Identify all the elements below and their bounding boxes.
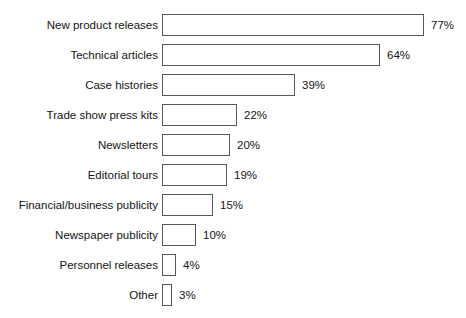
bar — [162, 14, 424, 36]
chart-caption — [10, 0, 310, 5]
bar-row: Financial/business publicity15% — [0, 194, 466, 216]
bar-row: Trade show press kits22% — [0, 104, 466, 126]
bar-value-label: 39% — [295, 74, 325, 96]
bar-row: Newspaper publicity10% — [0, 224, 466, 246]
bar-category-label: Newsletters — [98, 134, 158, 156]
bar — [162, 134, 230, 156]
bar-row: Other3% — [0, 284, 466, 306]
bar-value-label: 19% — [227, 164, 257, 186]
bar-track — [162, 164, 227, 186]
bar-track — [162, 104, 237, 126]
bar-track — [162, 134, 230, 156]
bar-row: Editorial tours19% — [0, 164, 466, 186]
bar-track — [162, 74, 295, 96]
bar-row: New product releases77% — [0, 14, 466, 36]
bar-category-label: New product releases — [47, 14, 158, 36]
bar-category-label: Technical articles — [70, 44, 158, 66]
bar-row: Case histories39% — [0, 74, 466, 96]
bar — [162, 74, 295, 96]
bar — [162, 284, 172, 306]
bar-value-label: 3% — [172, 284, 196, 306]
bar-track — [162, 254, 176, 276]
bar-category-label: Case histories — [85, 74, 158, 96]
bar-value-label: 10% — [196, 224, 226, 246]
bar-value-label: 4% — [176, 254, 200, 276]
bar-value-label: 22% — [237, 104, 267, 126]
bar — [162, 44, 380, 66]
bar-value-label: 64% — [380, 44, 410, 66]
bar-category-label: Newspaper publicity — [55, 224, 158, 246]
bar-row: Newsletters20% — [0, 134, 466, 156]
bar-value-label: 77% — [424, 14, 454, 36]
bar-value-label: 20% — [230, 134, 260, 156]
bar-category-label: Financial/business publicity — [19, 194, 158, 216]
bar-row: Technical articles64% — [0, 44, 466, 66]
bar-row: Personnel releases4% — [0, 254, 466, 276]
bar-track — [162, 194, 213, 216]
bar-track — [162, 284, 172, 306]
bar — [162, 224, 196, 246]
chart-plot-area: New product releases77%Technical article… — [0, 14, 466, 314]
bar-track — [162, 14, 424, 36]
bar — [162, 164, 227, 186]
bar — [162, 194, 213, 216]
bar-track — [162, 44, 380, 66]
bar-category-label: Editorial tours — [88, 164, 158, 186]
horizontal-bar-chart: New product releases77%Technical article… — [0, 0, 466, 318]
bar-category-label: Other — [129, 284, 158, 306]
bar-value-label: 15% — [213, 194, 243, 216]
bar-category-label: Trade show press kits — [47, 104, 158, 126]
bar — [162, 254, 176, 276]
bar-track — [162, 224, 196, 246]
bar — [162, 104, 237, 126]
bar-category-label: Personnel releases — [60, 254, 158, 276]
